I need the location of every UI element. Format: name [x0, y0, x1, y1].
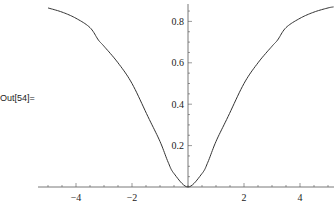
y-tick-label: 0.4	[172, 99, 185, 110]
y-tick-label: 0.6	[172, 57, 185, 68]
x-tick-label: −2	[127, 192, 138, 203]
y-tick-label: 0.2	[172, 140, 185, 151]
line-plot: −4−2240.20.40.60.8	[0, 0, 334, 204]
data-curve	[48, 7, 334, 187]
x-tick-label: 4	[298, 192, 303, 203]
tick-labels: −4−2240.20.40.60.8	[71, 16, 303, 203]
x-tick-label: −4	[71, 192, 82, 203]
axes	[38, 4, 334, 187]
x-tick-label: 2	[242, 192, 247, 203]
y-tick-label: 0.8	[172, 16, 185, 27]
